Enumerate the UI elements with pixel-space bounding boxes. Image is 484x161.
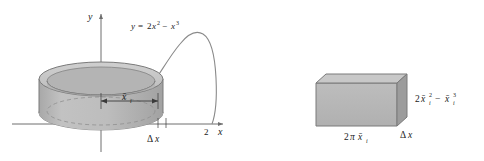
slab-width-subscript: i bbox=[366, 138, 368, 144]
slab-width-label: 2 π x̄ i bbox=[344, 132, 368, 144]
x-tick-label-2: 2 bbox=[204, 127, 209, 137]
slab-height-subscript1: i bbox=[429, 100, 431, 106]
slab-depth-delta: Δ bbox=[400, 130, 406, 140]
equation-term1-coeff: 2 bbox=[147, 21, 152, 31]
slab-height-minus: − bbox=[435, 94, 440, 104]
slab-depth-label: Δ x bbox=[400, 130, 413, 140]
equation-term1-exponent: 2 bbox=[157, 20, 160, 26]
figure-canvas: y x 2 y = 2 x 2 − x 3 x̄ i Δ x 2 π bbox=[0, 0, 484, 161]
slab-width-two: 2 bbox=[344, 132, 349, 142]
slab-width-pi: π bbox=[350, 132, 355, 142]
slab-height-xbar2: x̄ bbox=[444, 94, 450, 104]
slab-height-subscript2: i bbox=[453, 100, 455, 106]
thickness-label-delta: Δ bbox=[147, 134, 153, 144]
slab-height-label: 2 x̄ i 2 − x̄ i 3 bbox=[415, 92, 456, 106]
equation-minus: − bbox=[162, 21, 167, 31]
axis-x-label: x bbox=[217, 126, 223, 137]
curve-equation-label: y = 2 x 2 − x 3 bbox=[130, 20, 179, 31]
thickness-label: Δ x bbox=[147, 134, 160, 144]
slab-height-exponent1: 2 bbox=[429, 92, 432, 98]
radius-label-xbar: x̄ bbox=[121, 92, 127, 102]
figure-svg: y x 2 y = 2 x 2 − x 3 x̄ i Δ x 2 π bbox=[0, 0, 484, 161]
slab-height-xbar1: x̄ bbox=[420, 94, 426, 104]
equation-term1-var: x bbox=[151, 21, 156, 31]
slab-width-xbar: x̄ bbox=[357, 132, 363, 142]
thickness-label-var: x bbox=[154, 134, 160, 144]
axis-y-label: y bbox=[87, 11, 93, 22]
slab-height-exponent2: 3 bbox=[453, 92, 456, 98]
equation-term2-var: x bbox=[170, 21, 175, 31]
slab-shape bbox=[316, 74, 407, 126]
slab-height-two: 2 bbox=[415, 94, 420, 104]
equation-lhs: y bbox=[130, 21, 135, 31]
equation-equals: = bbox=[138, 21, 143, 31]
slab-depth-var: x bbox=[407, 130, 413, 140]
equation-term2-exponent: 3 bbox=[176, 20, 179, 26]
